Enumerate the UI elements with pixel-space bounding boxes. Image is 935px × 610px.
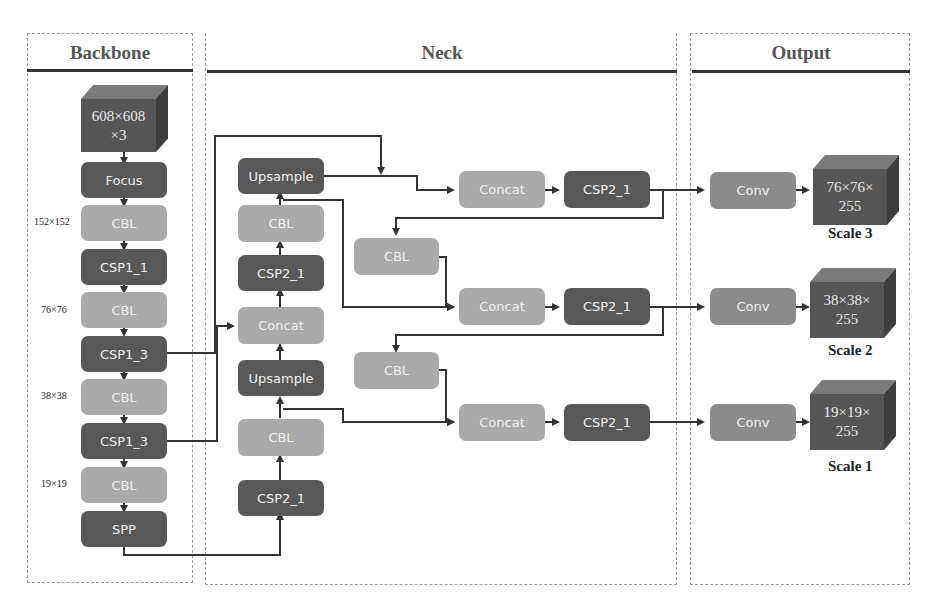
neck-upsample-top: Upsample	[238, 158, 324, 194]
cube3-line1: 76×76×	[827, 178, 874, 197]
backbone-cbl-2: CBL	[81, 292, 167, 328]
dim-label-19: 19×19	[41, 478, 67, 489]
conv-scale3: Conv	[710, 172, 796, 209]
dim-label-152: 152×152	[34, 216, 70, 227]
scale-3-label: Scale 3	[828, 225, 873, 242]
output-cube-scale2: 38×38× 255	[810, 268, 896, 338]
input-size-line1: 608×608	[92, 107, 145, 126]
backbone-cbl-4: CBL	[81, 467, 167, 503]
scale-2-label: Scale 2	[828, 342, 873, 359]
conv-scale1: Conv	[710, 404, 796, 441]
csp1-3-block-a: CSP1_3	[81, 336, 167, 372]
neck-concat-left: Concat	[238, 307, 324, 344]
concat-scale1: Concat	[459, 404, 545, 441]
dim-label-76: 76×76	[41, 304, 67, 315]
neck-csp2-1-upper: CSP2_1	[238, 255, 324, 291]
csp2-1-scale1: CSP2_1	[564, 404, 650, 441]
output-cube-scale1: 19×19× 255	[810, 380, 896, 450]
neck-side-cbl-1: CBL	[354, 238, 439, 275]
scale-1-label: Scale 1	[828, 458, 873, 475]
csp1-3-block-b: CSP1_3	[81, 423, 167, 459]
focus-block: Focus	[81, 162, 167, 198]
backbone-cbl-3: CBL	[81, 379, 167, 415]
cube1-line1: 19×19×	[824, 403, 871, 422]
csp2-1-scale3: CSP2_1	[564, 171, 650, 208]
conv-scale2: Conv	[710, 288, 796, 325]
cube2-line2: 255	[836, 310, 859, 329]
dim-label-38: 38×38	[41, 390, 67, 401]
neck-side-cbl-2: CBL	[354, 352, 439, 389]
input-size-line2: ×3	[111, 126, 127, 145]
csp1-1-block: CSP1_1	[81, 249, 167, 285]
backbone-cbl-1: CBL	[81, 205, 167, 241]
concat-scale2: Concat	[459, 288, 545, 325]
input-tensor-cube: 608×608 ×3	[81, 85, 168, 152]
cube2-line1: 38×38×	[824, 291, 871, 310]
neck-cbl-top: CBL	[238, 205, 324, 242]
csp2-1-scale2: CSP2_1	[564, 288, 650, 325]
cube1-line2: 255	[836, 422, 859, 441]
neck-upsample-lower: Upsample	[238, 360, 324, 396]
cube3-line2: 255	[839, 197, 862, 216]
output-cube-scale3: 76×76× 255	[813, 155, 899, 225]
concat-scale3: Concat	[459, 171, 545, 208]
neck-csp2-1-bottom: CSP2_1	[238, 480, 324, 516]
spp-block: SPP	[81, 511, 167, 547]
neck-cbl-lower: CBL	[238, 419, 324, 456]
